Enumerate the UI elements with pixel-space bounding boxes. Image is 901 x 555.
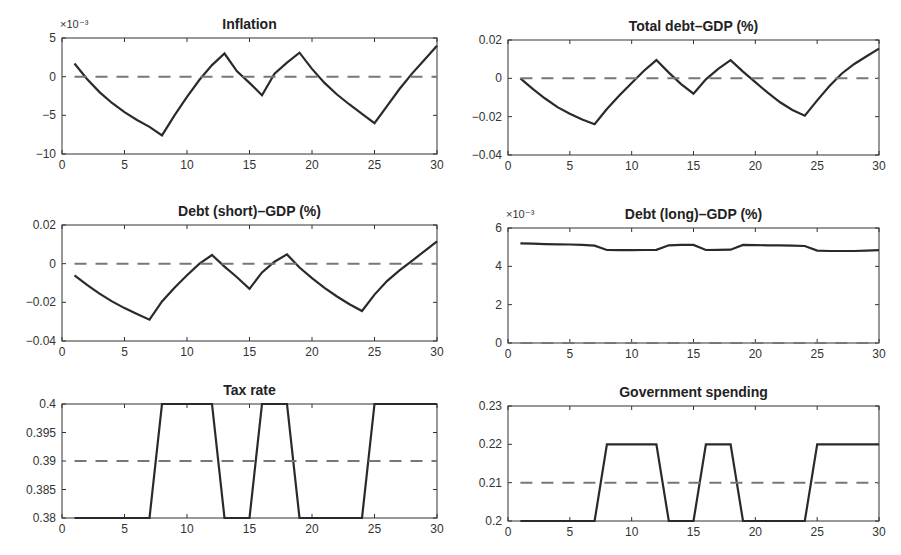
x-tick-label: 20 (749, 525, 763, 539)
x-tick-label: 5 (566, 525, 573, 539)
exponent-label: ×10⁻³ (506, 208, 535, 220)
y-tick-label: −5 (42, 108, 56, 122)
x-tick-label: 30 (872, 525, 886, 539)
panel-title: Government spending (619, 384, 768, 400)
x-tick-label: 10 (180, 158, 194, 172)
x-tick-label: 15 (243, 158, 257, 172)
response-series (520, 243, 879, 251)
x-tick-label: 10 (180, 345, 194, 359)
y-tick-label: 4 (495, 259, 502, 273)
y-tick-label: 0 (49, 70, 56, 84)
response-series (75, 404, 438, 518)
x-tick-label: 0 (505, 525, 512, 539)
x-tick-label: 25 (368, 345, 382, 359)
y-tick-label: 0.385 (26, 483, 56, 497)
y-tick-label: −10 (36, 147, 57, 161)
x-tick-label: 0 (505, 159, 512, 173)
y-tick-label: 0.395 (26, 426, 56, 440)
x-tick-label: 0 (59, 522, 66, 536)
axes-box (62, 225, 437, 341)
x-tick-label: 5 (566, 347, 573, 361)
figure-canvas: Inflation ×10⁻³ 051015202530−10−505 Tota… (0, 0, 901, 555)
x-tick-label: 15 (687, 525, 701, 539)
x-tick-label: 20 (305, 522, 319, 536)
y-tick-label: 0.38 (33, 511, 57, 525)
axes-box (508, 406, 879, 521)
x-tick-label: 5 (121, 158, 128, 172)
x-tick-label: 10 (625, 525, 639, 539)
x-tick-label: 15 (243, 522, 257, 536)
exponent-label: ×10⁻³ (60, 18, 89, 30)
x-tick-label: 10 (625, 347, 639, 361)
response-series (75, 46, 438, 136)
x-tick-label: 0 (59, 345, 66, 359)
y-tick-label: 0.02 (479, 33, 503, 47)
y-tick-label: 0.02 (33, 218, 57, 232)
x-tick-label: 30 (430, 522, 444, 536)
panel-title: Inflation (222, 16, 276, 32)
x-tick-label: 20 (749, 347, 763, 361)
y-tick-label: −0.04 (26, 334, 57, 348)
y-tick-label: 0.39 (33, 454, 57, 468)
x-tick-label: 25 (810, 347, 824, 361)
x-tick-label: 20 (305, 345, 319, 359)
panel-title: Tax rate (223, 382, 276, 398)
x-tick-label: 20 (749, 159, 763, 173)
y-tick-label: 0 (495, 71, 502, 85)
y-tick-label: 0 (495, 336, 502, 350)
panel-title: Total debt–GDP (%) (629, 18, 758, 34)
x-tick-label: 20 (305, 158, 319, 172)
x-tick-label: 30 (430, 158, 444, 172)
y-tick-label: 0 (49, 257, 56, 271)
x-tick-label: 5 (566, 159, 573, 173)
x-tick-label: 30 (872, 159, 886, 173)
panel-debt-short-gdp: Debt (short)–GDP (%) 051015202530−0.04−0… (26, 203, 444, 359)
panel-government-spending: Government spending 0510152025300.20.210… (479, 384, 886, 539)
panel-tax-rate: Tax rate 0510152025300.380.3850.390.3950… (26, 382, 444, 536)
x-tick-label: 5 (121, 345, 128, 359)
x-tick-label: 25 (810, 159, 824, 173)
x-tick-label: 10 (625, 159, 639, 173)
y-tick-label: 0.4 (39, 397, 56, 411)
axes-box (62, 38, 437, 154)
y-tick-label: 5 (49, 31, 56, 45)
x-tick-label: 10 (180, 522, 194, 536)
panel-total-debt-gdp: Total debt–GDP (%) 051015202530−0.04−0.0… (472, 18, 886, 173)
y-tick-label: −0.02 (26, 295, 57, 309)
y-tick-label: 6 (495, 221, 502, 235)
x-tick-label: 30 (872, 347, 886, 361)
panel-debt-long-gdp: Debt (long)–GDP (%) ×10⁻³ 05101520253002… (495, 206, 886, 361)
x-tick-label: 25 (368, 158, 382, 172)
x-tick-label: 25 (368, 522, 382, 536)
x-tick-label: 15 (243, 345, 257, 359)
x-tick-label: 0 (505, 347, 512, 361)
x-tick-label: 30 (430, 345, 444, 359)
response-series (520, 49, 879, 125)
x-tick-label: 5 (121, 522, 128, 536)
x-tick-label: 15 (687, 159, 701, 173)
axes-box (508, 40, 879, 155)
panel-inflation: Inflation ×10⁻³ 051015202530−10−505 (36, 16, 444, 172)
y-tick-label: 2 (495, 298, 502, 312)
y-tick-label: 0.21 (479, 476, 503, 490)
response-series (75, 241, 438, 319)
panel-title: Debt (long)–GDP (%) (625, 206, 762, 222)
y-tick-label: 0.23 (479, 399, 503, 413)
x-tick-label: 25 (810, 525, 824, 539)
y-tick-label: 0.2 (485, 514, 502, 528)
y-tick-label: −0.02 (472, 110, 503, 124)
x-tick-label: 0 (59, 158, 66, 172)
x-tick-label: 15 (687, 347, 701, 361)
y-tick-label: 0.22 (479, 437, 503, 451)
y-tick-label: −0.04 (472, 148, 503, 162)
panel-title: Debt (short)–GDP (%) (178, 203, 321, 219)
